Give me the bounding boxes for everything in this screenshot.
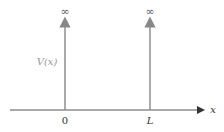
origin-label: 0 [62,115,68,126]
x-axis-label: x [210,104,216,115]
left-infinity-label: ∞ [60,5,69,18]
right-infinity-label: ∞ [145,5,154,18]
infinite-well-diagram: ∞ ∞ V(x) 0 L x [0,0,224,132]
potential-label: V(x) [37,56,58,67]
length-label: L [146,115,154,126]
